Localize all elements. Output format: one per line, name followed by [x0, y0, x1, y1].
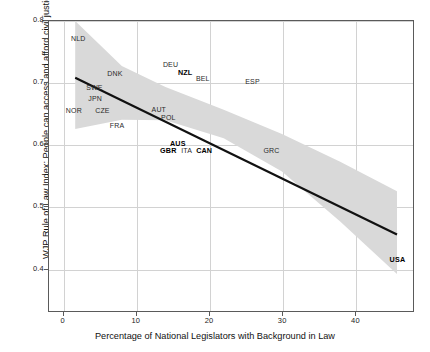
regression-line: [49, 21, 413, 311]
x-axis-label: Percentage of National Legislators with …: [0, 331, 430, 341]
x-tick-label: 20: [189, 316, 229, 325]
data-point-label-jpn: JPN: [88, 95, 102, 102]
data-point-label-gbr: GBR: [160, 145, 176, 154]
y-tick-label: 0.6: [2, 139, 44, 148]
data-point-label-esp: ESP: [245, 78, 259, 85]
y-tick-label: 0.7: [2, 77, 44, 86]
x-tick-mark: [136, 312, 137, 316]
x-tick-mark: [63, 312, 64, 316]
data-point-label-dnk: DNK: [107, 69, 122, 76]
x-tick-mark: [282, 312, 283, 316]
data-point-label-fra: FRA: [110, 121, 124, 128]
data-point-label-deu: DEU: [163, 60, 178, 67]
data-point-label-can: CAN: [196, 145, 212, 154]
x-tick-label: 10: [116, 316, 156, 325]
x-tick-mark: [209, 312, 210, 316]
data-point-label-bel: BEL: [196, 74, 210, 81]
data-point-label-pol: POL: [161, 114, 175, 121]
plot-area: NLDDNKSWEJPNNORCZEFRADEUNZLBELESPAUTPOLA…: [48, 20, 414, 312]
data-point-label-nor: NOR: [66, 106, 82, 113]
data-point-label-ita: ITA: [181, 146, 192, 153]
x-tick-label: 0: [43, 316, 83, 325]
x-tick-mark: [355, 312, 356, 316]
regression-line-stroke: [75, 78, 397, 235]
data-point-label-grc: GRC: [264, 147, 280, 154]
y-tick-label: 0.8: [2, 15, 44, 24]
y-tick-label: 0.4: [2, 264, 44, 273]
x-tick-label: 40: [335, 316, 375, 325]
data-point-label-swe: SWE: [86, 84, 102, 91]
data-point-label-nzl: NZL: [178, 67, 192, 76]
x-tick-label: 30: [262, 316, 302, 325]
data-point-label-aut: AUT: [152, 106, 166, 113]
data-point-label-cze: CZE: [95, 106, 109, 113]
data-point-label-nld: NLD: [71, 34, 85, 41]
scatter-plot-figure: WJP Rule of Law Index: People can access…: [0, 0, 430, 352]
y-tick-label: 0.5: [2, 201, 44, 210]
data-point-label-usa: USA: [390, 254, 406, 263]
